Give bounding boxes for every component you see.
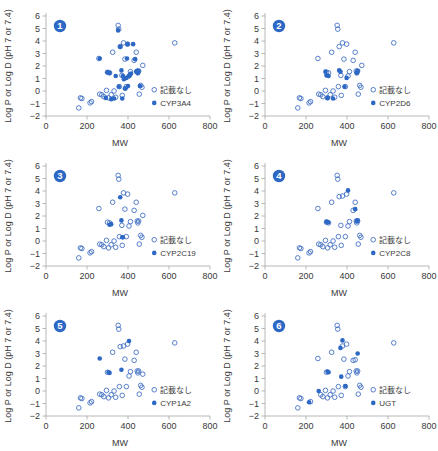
series-open: [296, 323, 397, 410]
x-tick-label: 0: [262, 121, 267, 131]
data-point: [338, 69, 343, 74]
data-point: [136, 69, 141, 74]
data-point: [342, 357, 347, 362]
x-tick-label: 800: [202, 421, 217, 431]
data-point: [110, 350, 115, 355]
data-point: [339, 223, 344, 228]
x-axis-title: MW: [112, 438, 128, 448]
y-axis-title: Log P or Log D (pH 7 or 7.4): [3, 159, 13, 272]
legend-label-enzyme: CYP2C8: [379, 249, 411, 258]
data-point: [344, 76, 349, 81]
data-point: [326, 220, 331, 225]
data-point: [355, 351, 360, 356]
y-tick-label: −2: [249, 111, 259, 121]
data-point: [134, 200, 139, 205]
data-point: [110, 200, 115, 205]
y-tick-label: 4: [254, 186, 259, 196]
x-tick-label: 200: [79, 271, 94, 281]
x-tick-label: 200: [298, 271, 313, 281]
y-tick-label: 4: [35, 36, 40, 46]
panel-number-label: 4: [276, 170, 282, 181]
panel-number-label: 5: [57, 320, 63, 331]
data-point: [119, 367, 124, 372]
data-point: [123, 357, 128, 362]
data-point: [97, 206, 102, 211]
legend-label-open: 記載なし: [379, 85, 411, 95]
data-point: [332, 245, 337, 250]
data-point: [121, 235, 126, 240]
y-tick-label: 5: [35, 174, 40, 184]
data-point: [140, 372, 145, 377]
y-tick-label: −2: [30, 111, 40, 121]
data-point: [127, 224, 132, 229]
y-tick-label: 5: [254, 24, 259, 34]
x-axis-title: MW: [331, 288, 347, 298]
x-tick-label: 600: [380, 121, 395, 131]
y-axis-title: Log P or Log D (pH 7 or 7.4): [222, 309, 232, 422]
y-tick-label: 2: [35, 61, 40, 71]
data-point: [339, 393, 344, 398]
data-point: [132, 208, 137, 213]
y-tick-label: 5: [35, 24, 40, 34]
data-point: [339, 243, 344, 248]
data-point: [137, 92, 142, 97]
y-tick-label: 4: [35, 336, 40, 346]
data-point: [316, 206, 321, 211]
y-tick-label: 6: [254, 311, 259, 321]
data-point: [347, 219, 352, 224]
y-tick-label: 1: [254, 374, 259, 384]
data-point: [331, 389, 336, 394]
data-point: [351, 58, 356, 63]
data-point: [353, 207, 358, 212]
y-tick-label: 4: [35, 186, 40, 196]
panel-number-label: 1: [57, 20, 63, 31]
y-tick-label: 5: [254, 174, 259, 184]
legend-label-open: 記載なし: [160, 85, 192, 95]
data-point: [329, 350, 334, 355]
y-tick-label: 3: [35, 49, 40, 59]
data-point: [359, 63, 364, 68]
y-tick-label: −1: [249, 249, 259, 259]
y-tick-label: −2: [30, 261, 40, 271]
data-point: [347, 69, 352, 74]
data-point: [356, 392, 361, 397]
y-tick-label: 3: [35, 199, 40, 209]
x-tick-label: 0: [262, 421, 267, 431]
data-point: [331, 239, 336, 244]
x-tick-label: 600: [380, 271, 395, 281]
data-point: [329, 200, 334, 205]
data-point: [138, 84, 143, 89]
y-tick-label: 6: [35, 161, 40, 171]
data-point: [77, 406, 82, 411]
panel-number-label: 6: [276, 320, 281, 331]
legend-label-enzyme: UGT: [379, 399, 396, 408]
data-point: [77, 106, 82, 111]
data-point: [124, 384, 129, 389]
data-point: [338, 346, 343, 351]
x-tick-label: 800: [421, 421, 436, 431]
x-tick-label: 200: [79, 121, 94, 131]
data-point: [118, 195, 123, 200]
x-tick-label: 600: [161, 421, 176, 431]
data-point: [340, 338, 345, 343]
data-point: [344, 342, 349, 347]
data-point: [307, 400, 312, 405]
scatter-panel-6: 6543210−1−20200400600800MWLog P or Log D…: [219, 300, 438, 450]
data-point: [109, 222, 114, 227]
data-point: [343, 234, 348, 239]
y-tick-label: 1: [35, 224, 40, 234]
x-tick-label: 800: [421, 271, 436, 281]
data-point: [339, 93, 344, 98]
data-point: [329, 50, 334, 55]
legend-marker-open: [371, 237, 376, 242]
data-point: [325, 396, 330, 401]
data-point: [119, 68, 124, 73]
data-point: [346, 224, 351, 229]
data-point: [128, 219, 133, 224]
scatter-panel-5: 6543210−1−20200400600800MWLog P or Log D…: [0, 300, 219, 450]
y-tick-label: 3: [254, 49, 259, 59]
data-point: [132, 358, 137, 363]
x-tick-label: 600: [161, 271, 176, 281]
scatter-panel-4: 6543210−1−20200400600800MWLog P or Log D…: [219, 150, 438, 300]
y-tick-label: −1: [30, 249, 40, 259]
